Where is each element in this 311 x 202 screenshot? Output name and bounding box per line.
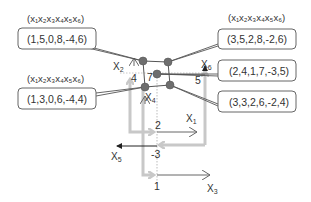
node-center [153,70,161,78]
x4-value: 7 [147,71,153,83]
x2-label: X2 [113,61,124,73]
value-mid-right: (2,4,1,7,-3,5) [229,65,289,77]
x6-value: 5 [195,74,201,86]
header-mid-left: (x₁x₂x₃x₄x₅x₆) [27,73,84,84]
node-bottom-left [141,83,149,91]
x5-label: X5 [111,151,122,163]
node-top-right [164,58,172,66]
node-bottom-right [166,81,174,89]
value-top-left: (1,5,0,8,-4,6) [27,33,87,45]
parallel-coordinates-diagram: (x₁x₂x₃x₄x₅x₆) (x₁x₂x₃x₄x₅x₆) (x₁x₂x₃x₄x… [0,0,311,202]
x3-value: 1 [154,180,160,192]
value-low-right: (3,3,2,6,-2,4) [229,96,289,108]
header-top-right: (x₁x₂x₃x₄x₅x₆) [228,12,285,23]
value-mid-left: (1,3,0,6,-4,4) [27,93,87,105]
value-top-right: (3,5,2,8,-2,6) [227,33,287,45]
node-top-left [139,57,147,65]
x1-label: X1 [186,113,197,125]
header-top-left: (x₁x₂x₃x₄x₅x₆) [27,13,84,24]
x1-value: 2 [155,119,161,131]
x4-label: X4 [145,92,156,104]
x5-value: -3 [151,148,160,160]
x6-label: X6 [201,59,212,71]
x3-label: X3 [207,183,218,195]
x2-value: 4 [131,72,137,84]
